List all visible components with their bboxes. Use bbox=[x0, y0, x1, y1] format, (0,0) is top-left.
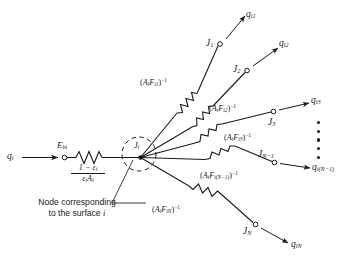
branch-1-node-label: J1 bbox=[206, 39, 213, 49]
branch-n-wire-inner bbox=[141, 158, 190, 187]
center-node-annotation: Node corresponding to the surface i bbox=[25, 197, 129, 219]
ellipsis-dot bbox=[317, 138, 320, 141]
branch-3-resistor bbox=[195, 124, 222, 143]
surface-resistance-denominator: εiAi bbox=[71, 173, 105, 183]
branch-n-wire-outer bbox=[221, 194, 253, 223]
vertical-ellipsis bbox=[316, 121, 321, 159]
surface-resistance-label: 1 − εi εiAi bbox=[71, 164, 105, 184]
blackbody-potential-label: Ebi bbox=[57, 141, 67, 151]
branch-n-resistor bbox=[189, 184, 221, 197]
branch-n1-flux-arrow bbox=[280, 164, 310, 169]
network-schematic bbox=[0, 0, 355, 261]
center-node-label: Ji bbox=[134, 141, 139, 151]
branch-n-resistance-label: (AiFiN)−1 bbox=[152, 205, 180, 214]
branch-3-wire-inner bbox=[141, 143, 196, 158]
surface-resistance-numerator: 1 − εi bbox=[71, 164, 105, 173]
branch-1-resistance-label: (AiFi1)−1 bbox=[140, 78, 167, 87]
branch-3-flux-label: qi3 bbox=[311, 96, 321, 106]
radiation-network-diagram: qi Ebi 1 − εi εiAi Ji Node corresponding… bbox=[0, 0, 355, 261]
branch-n1-wire-inner bbox=[141, 158, 206, 160]
blackbody-potential-node bbox=[62, 155, 67, 160]
surface-resistor bbox=[76, 152, 102, 164]
branch-2-flux-label: qi2 bbox=[279, 39, 289, 49]
input-flux-label: qi bbox=[7, 152, 14, 162]
branch-1-flux-label: qi1 bbox=[246, 10, 256, 20]
annotation-line-2: to the surface i bbox=[49, 208, 106, 218]
branch-1-node-J1 bbox=[218, 42, 223, 47]
branch-2-node-label: J2 bbox=[233, 65, 240, 75]
branch-n1-resistance-label: (AiFi(N−1))−1 bbox=[200, 171, 238, 180]
branch-1-resistor bbox=[177, 93, 197, 114]
branch-2-resistance-label: (AiFi2)−1 bbox=[209, 104, 236, 113]
branch-1-wire-outer bbox=[197, 46, 218, 94]
annotation-line-1: Node corresponding bbox=[38, 197, 115, 207]
ellipsis-dot bbox=[317, 147, 320, 150]
branch-n-flux-arrow bbox=[261, 228, 288, 243]
branch-n-node-JN bbox=[253, 222, 258, 227]
branch-n-node-label: JN bbox=[243, 227, 251, 237]
branch-2-wire-outer bbox=[213, 73, 245, 107]
branch-n-flux-label: qiN bbox=[291, 240, 302, 250]
branch-2-node-J2 bbox=[245, 68, 250, 73]
branch-n1-node-JN1 bbox=[272, 160, 277, 165]
ellipsis-dot bbox=[317, 156, 320, 159]
branch-3-wire-outer bbox=[222, 112, 271, 124]
ellipsis-dot bbox=[317, 130, 320, 133]
branch-n1-resistor bbox=[205, 146, 235, 160]
branch-3-node-J3 bbox=[271, 109, 276, 114]
branch-2-flux-arrow bbox=[253, 48, 278, 66]
branch-1-wire-inner bbox=[141, 113, 178, 158]
branch-n1-flux-label: qi(N−1) bbox=[312, 163, 334, 173]
branch-3-resistance-label: (AiFi3)−1 bbox=[224, 133, 251, 142]
branch-n1-node-label: JN−1 bbox=[258, 150, 274, 160]
branch-2-wire-inner bbox=[141, 127, 193, 158]
branch-3-flux-arrow bbox=[279, 103, 309, 110]
branch-3-node-label: J3 bbox=[268, 118, 275, 128]
ellipsis-dot bbox=[317, 121, 320, 124]
branch-1-flux-arrow bbox=[226, 16, 245, 39]
